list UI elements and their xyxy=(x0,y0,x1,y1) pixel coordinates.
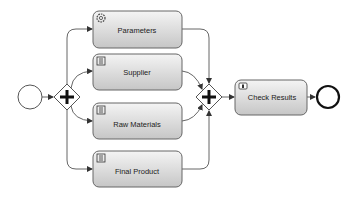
flow-final-product-to-join[interactable] xyxy=(182,111,209,169)
flow-raw-materials-to-join[interactable] xyxy=(182,105,202,121)
flow-parameters-to-join[interactable] xyxy=(182,29,209,83)
flow-split-to-parameters[interactable] xyxy=(67,29,92,84)
task-raw-materials[interactable]: Raw Materials xyxy=(93,103,182,139)
flow-split-to-final-product[interactable] xyxy=(67,110,92,169)
task-label: Final Product xyxy=(115,167,160,176)
join-gateway[interactable] xyxy=(196,84,222,110)
task-label: Supplier xyxy=(123,68,151,77)
flow-supplier-to-join[interactable] xyxy=(182,71,202,89)
end-event[interactable] xyxy=(317,86,339,108)
task-label: Check Results xyxy=(248,93,297,102)
task-final-product[interactable]: Final Product xyxy=(93,151,182,187)
flow-split-to-raw-materials[interactable] xyxy=(71,106,92,121)
start-event[interactable] xyxy=(18,85,42,109)
task-label: Parameters xyxy=(118,26,157,35)
task-label: Raw Materials xyxy=(113,120,161,129)
task-parameters[interactable]: Parameters xyxy=(93,11,182,48)
task-check-results[interactable]: Check Results xyxy=(235,80,307,115)
task-supplier[interactable]: Supplier xyxy=(93,54,182,90)
user-icon xyxy=(239,83,247,89)
bpmn-diagram: Parameters Supplier Raw Materials Final … xyxy=(0,0,355,202)
flow-split-to-supplier[interactable] xyxy=(71,71,92,88)
split-gateway[interactable] xyxy=(54,84,80,110)
